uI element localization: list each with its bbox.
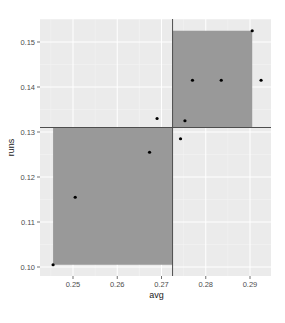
data-point [220,79,223,82]
shaded-rect [173,31,253,128]
y-tick-label: 0.14 [20,83,35,92]
y-tick-label: 0.13 [20,128,35,137]
y-tick-label: 0.15 [20,38,35,47]
data-point [74,196,77,199]
y-tick-label: 0.12 [20,173,35,182]
data-point [155,117,158,120]
data-point [183,119,186,122]
shaded-rect [53,128,172,265]
y-tick-label: 0.10 [20,263,35,272]
y-axis: 0.100.110.120.130.140.15 [20,38,40,272]
x-tick-label: 0.25 [66,280,81,289]
data-point [191,79,194,82]
y-axis-title: runs [6,138,16,156]
x-axis-title: avg [149,290,164,300]
x-tick-label: 0.26 [110,280,125,289]
scatter-chart: 0.250.260.270.280.29 0.100.110.120.130.1… [0,0,285,323]
data-point [148,151,151,154]
x-tick-label: 0.28 [198,280,213,289]
data-point [251,29,254,32]
data-point [51,263,54,266]
x-tick-label: 0.29 [243,280,258,289]
x-tick-label: 0.27 [154,280,169,289]
data-point [259,79,262,82]
x-axis: 0.250.260.270.280.29 [66,276,258,289]
data-point [179,137,182,140]
y-tick-label: 0.11 [21,218,35,227]
